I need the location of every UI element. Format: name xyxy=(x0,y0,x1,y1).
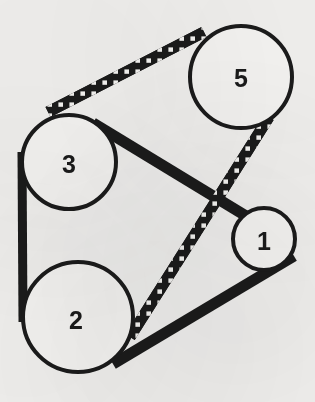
diagram-canvas: 5 3 2 1 xyxy=(0,0,315,402)
pulley-3[interactable]: 3 xyxy=(22,115,116,209)
pulley-group: 5 3 2 1 xyxy=(22,26,295,372)
pulley-3-label: 3 xyxy=(62,150,76,178)
belt-3-to-5-toothed xyxy=(48,32,204,112)
belt-1-to-2-solid xyxy=(113,256,294,364)
pulley-5-label: 5 xyxy=(234,64,248,92)
pulley-1-label: 1 xyxy=(257,227,271,255)
pulley-5[interactable]: 5 xyxy=(190,26,292,128)
pulley-belt-diagram: 5 3 2 1 xyxy=(0,0,315,402)
pulley-2[interactable]: 2 xyxy=(23,262,133,372)
pulley-2-label: 2 xyxy=(69,306,83,334)
pulley-1[interactable]: 1 xyxy=(233,208,295,270)
